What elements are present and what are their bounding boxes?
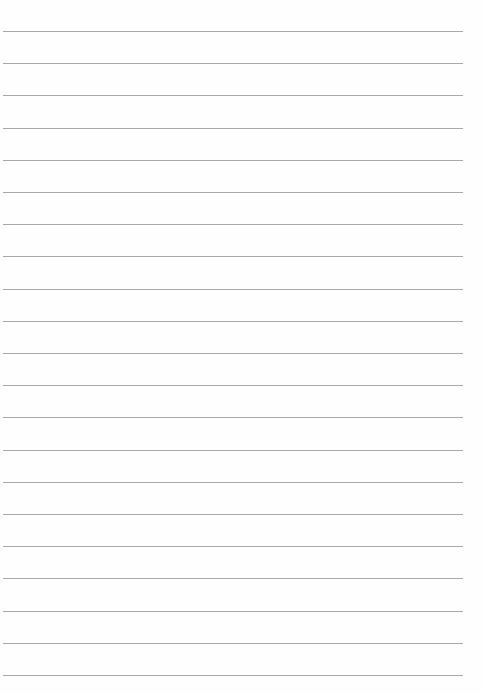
ruled-line: [3, 450, 463, 451]
ruled-line: [3, 256, 463, 257]
ruled-line: [3, 578, 463, 579]
ruled-line: [3, 385, 463, 386]
ruled-line: [3, 289, 463, 290]
ruled-line: [3, 611, 463, 612]
ruled-line: [3, 546, 463, 547]
ruled-line: [3, 160, 463, 161]
ruled-line: [3, 63, 463, 64]
ruled-line: [3, 643, 463, 644]
ruled-line: [3, 31, 463, 32]
ruled-line: [3, 514, 463, 515]
ruled-line: [3, 224, 463, 225]
ruled-line: [3, 353, 463, 354]
ruled-line: [3, 482, 463, 483]
ruled-line: [3, 321, 463, 322]
ruled-line: [3, 192, 463, 193]
ruled-line: [3, 95, 463, 96]
lined-paper-page: [0, 0, 484, 693]
ruled-line: [3, 128, 463, 129]
ruled-line: [3, 417, 463, 418]
ruled-line: [3, 675, 463, 676]
